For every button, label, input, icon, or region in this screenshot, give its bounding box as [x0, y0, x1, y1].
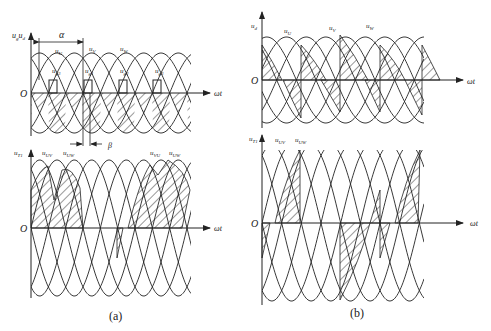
panel-a-bottom-plot: uT1 O ωt uUV uUW uVU uUW (a): [14, 149, 223, 323]
caption-b: (b): [350, 306, 364, 320]
panel-b-bottom-x-label: ωt: [470, 219, 479, 228]
label-uV-b: uV: [329, 24, 337, 33]
panel-b-top-plot: ud O ωt uU uV uW: [251, 12, 476, 128]
panel-b-bottom-origin: O: [251, 218, 258, 229]
label-uUV-a: uUV: [42, 149, 53, 158]
inverter-waveform-figure: ugud O ωt α β uU uV uW ug3 ug1 ug2 ug3 u…: [0, 0, 491, 331]
label-uU-b: uU: [284, 27, 292, 36]
panel-a-bottom-x-label: ωt: [214, 224, 223, 233]
label-ug2: ug2: [120, 67, 129, 76]
alpha-label: α: [59, 29, 65, 40]
panel-a-top-hatched-region: [31, 93, 190, 133]
label-uV: uV: [89, 45, 97, 54]
beta-label: β: [107, 141, 112, 150]
label-uW: uW: [120, 45, 129, 54]
label-uVU-a: uVU: [150, 149, 161, 158]
panel-b-bottom-y-label: uT1: [249, 135, 258, 144]
panel-a-top-origin: O: [20, 88, 27, 99]
label-uU: uU: [55, 47, 63, 56]
panel-b-top-x-label: ωt: [467, 77, 476, 86]
label-uUV-b: uUV: [275, 136, 286, 145]
label-uUW-a: uUW: [63, 149, 75, 158]
panel-a-bottom-y-label: uT1: [14, 149, 23, 158]
label-uW-b: uW: [366, 22, 375, 31]
panel-a-top-x-label: ωt: [214, 89, 223, 98]
caption-a: (a): [109, 309, 122, 323]
panel-a-top-y-label: ugud: [12, 31, 26, 41]
label-ug3-second: ug3: [155, 67, 164, 76]
label-uUW-b: uUW: [295, 136, 307, 145]
label-uUW-a2: uUW: [169, 149, 181, 158]
panel-a-bottom-origin: O: [20, 223, 27, 234]
panel-b-top-origin: O: [251, 75, 258, 86]
panel-a-top-plot: ugud O ωt α β uU uV uW ug3 ug1 ug2 ug3: [12, 29, 223, 150]
panel-b-top-y-label: ud: [251, 22, 258, 31]
panel-b-bottom-plot: uT1 O ωt uUV uUW (b): [249, 135, 479, 320]
